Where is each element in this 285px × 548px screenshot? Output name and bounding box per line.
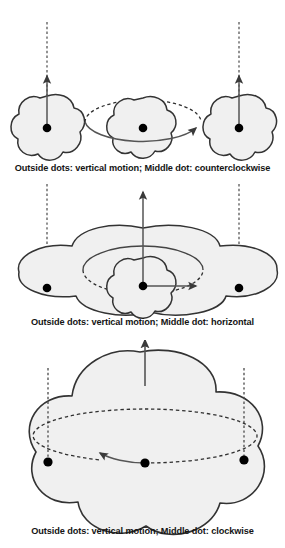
panel-horizontal: Outside dots: vertical motion; Middle do… xyxy=(0,178,285,340)
panel-clockwise: Outside dots: vertical motion; Middle do… xyxy=(0,340,285,548)
panel-3-graphic xyxy=(0,340,285,548)
middle-dot xyxy=(139,124,148,133)
right-dot xyxy=(235,284,244,293)
right-flower-group xyxy=(203,22,277,160)
panel-counterclockwise: Outside dots: vertical motion; Middle do… xyxy=(0,0,285,178)
right-dot xyxy=(235,124,244,133)
middle-dot xyxy=(140,458,149,467)
large-flower-shape xyxy=(29,350,264,534)
panel-2-caption: Outside dots: vertical motion; Middle do… xyxy=(0,317,285,327)
panel-3-caption: Outside dots: vertical motion; Middle do… xyxy=(0,526,285,536)
panel-2-graphic xyxy=(0,178,285,340)
middle-flower-group xyxy=(85,97,201,159)
left-dot xyxy=(43,124,52,133)
panel-1-graphic xyxy=(0,0,285,178)
panel-1-caption: Outside dots: vertical motion; Middle do… xyxy=(0,163,285,173)
middle-dot xyxy=(139,282,148,291)
left-dot xyxy=(43,284,52,293)
left-flower-group xyxy=(11,22,85,160)
left-dot xyxy=(43,457,52,466)
physics-motion-figure: Outside dots: vertical motion; Middle do… xyxy=(0,0,285,548)
right-dot xyxy=(239,455,248,464)
